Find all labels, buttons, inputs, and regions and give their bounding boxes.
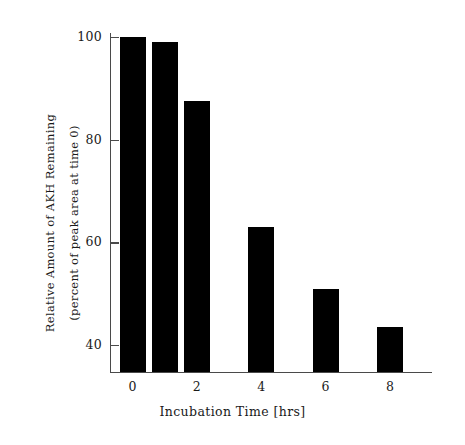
- bar-chart-figure: Relative Amount of AKH Remaining (percen…: [0, 0, 465, 445]
- bar-series: [110, 28, 432, 372]
- bar-1: [152, 42, 178, 372]
- y-axis-title-line-2: (percent of peak area at time 0): [67, 73, 81, 373]
- y-tick-label-100: 100: [58, 29, 102, 44]
- bar-4: [248, 227, 274, 372]
- x-tick-label-0: 0: [113, 379, 153, 394]
- x-tick-label-4: 4: [241, 379, 281, 394]
- x-tick-label-6: 6: [306, 379, 346, 394]
- y-axis-title-line-1: Relative Amount of AKH Remaining: [43, 73, 57, 373]
- y-axis-title: Relative Amount of AKH Remaining (percen…: [0, 0, 62, 445]
- x-axis-title: Incubation Time [hrs]: [0, 404, 465, 419]
- y-tick-label-60: 60: [58, 234, 102, 249]
- bar-0: [120, 37, 146, 372]
- x-tick-label-2: 2: [177, 379, 217, 394]
- bar-2: [184, 101, 210, 372]
- y-tick-label-40: 40: [58, 337, 102, 352]
- x-axis-line: [110, 372, 432, 373]
- x-tick-label-8: 8: [370, 379, 410, 394]
- bar-8: [377, 327, 403, 372]
- y-tick-label-80: 80: [58, 132, 102, 147]
- bar-6: [313, 289, 339, 372]
